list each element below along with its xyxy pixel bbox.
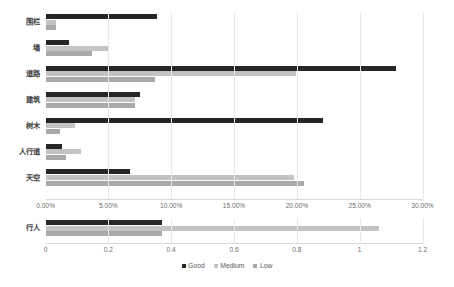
bar-good (46, 40, 69, 45)
bar-good (46, 92, 140, 97)
legend-swatch-low (253, 264, 257, 268)
bar-low (46, 181, 305, 186)
legend-item-low[interactable]: Low (253, 262, 272, 269)
bar-good (46, 14, 158, 19)
gridline (234, 218, 235, 243)
category-label: 建筑 (0, 96, 40, 103)
bar-low (46, 51, 92, 56)
legend-label: Low (260, 262, 272, 269)
category-label: 树木 (0, 122, 40, 129)
count-axis-tick-label: 1 (337, 247, 383, 254)
count-axis-tick-label: 0.2 (85, 247, 131, 254)
gridline (360, 218, 361, 243)
percent-axis-tick-label: 25.00% (337, 203, 383, 210)
legend-item-good[interactable]: Good (182, 262, 205, 269)
category-label: 墙 (0, 44, 40, 51)
bar-medium (46, 226, 379, 231)
bar-medium (46, 149, 82, 154)
category-label: 围栏 (0, 18, 40, 25)
bar-low (46, 231, 162, 236)
chart-legend: GoodMediumLow (0, 262, 454, 269)
count-axis-tick-label: 0.4 (148, 247, 194, 254)
bar-good (46, 66, 397, 71)
legend-swatch-good (182, 264, 186, 268)
gridline (297, 12, 298, 199)
percent-axis-tick-label: 20.00% (274, 203, 320, 210)
category-label: 道路 (0, 70, 40, 77)
category-label: 行人 (0, 224, 40, 231)
count-axis-line (46, 243, 423, 244)
bar-good (46, 144, 62, 149)
legend-item-medium[interactable]: Medium (214, 262, 245, 269)
gridline (171, 218, 172, 243)
bar-chart: 围栏墙道路建筑树木人行道天空0.00%5.00%10.00%15.00%20.0… (0, 0, 454, 287)
bar-low (46, 25, 57, 30)
bar-medium (46, 46, 108, 51)
gridline (234, 12, 235, 199)
category-label: 人行道 (0, 148, 40, 155)
bar-medium (46, 20, 57, 25)
gridline (108, 12, 109, 199)
bar-good (46, 118, 324, 123)
bar-medium (46, 123, 76, 128)
gridline (423, 12, 424, 199)
percent-axis-tick-label: 10.00% (148, 203, 194, 210)
count-axis-tick-label: 0.8 (274, 247, 320, 254)
bar-good (46, 169, 130, 174)
gridline (297, 218, 298, 243)
bar-low (46, 155, 66, 160)
percent-axis-tick-label: 30.00% (400, 203, 446, 210)
bar-low (46, 77, 155, 82)
category-label: 天空 (0, 174, 40, 181)
bar-medium (46, 175, 295, 180)
percent-axis-tick-label: 15.00% (211, 203, 257, 210)
bar-low (46, 103, 135, 108)
legend-label: Medium (220, 262, 244, 269)
bar-low (46, 129, 60, 134)
legend-swatch-medium (214, 264, 218, 268)
count-axis-tick-label: 0.6 (211, 247, 257, 254)
bar-good (46, 220, 162, 225)
percent-axis-tick-label: 5.00% (85, 203, 131, 210)
count-axis-tick-label: 1.2 (400, 247, 446, 254)
percent-axis-tick-label: 0.00% (23, 203, 69, 210)
legend-label: Good (188, 262, 205, 269)
percent-axis-line (46, 199, 423, 200)
count-axis-tick-label: 0 (23, 247, 69, 254)
gridline (360, 12, 361, 199)
gridline (423, 218, 424, 243)
bar-medium (46, 97, 135, 102)
gridline (171, 12, 172, 199)
gridline (108, 218, 109, 243)
